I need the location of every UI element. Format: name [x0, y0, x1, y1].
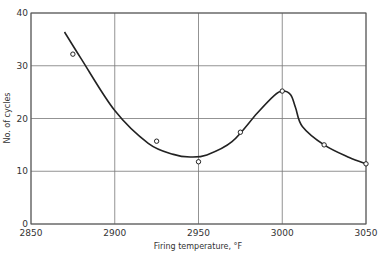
x-tick-label: 3050 — [355, 228, 378, 238]
y-tick-label: 40 — [17, 8, 29, 18]
y-tick-label: 20 — [17, 114, 29, 124]
gridlines — [31, 13, 366, 224]
data-point-marker — [322, 143, 326, 147]
data-point-marker — [238, 130, 242, 134]
x-axis-ticks: 28502900295030003050 — [20, 228, 378, 238]
data-point-marker — [280, 89, 284, 93]
y-axis-ticks: 010203040 — [17, 8, 29, 229]
y-tick-label: 10 — [17, 166, 29, 176]
x-tick-label: 3000 — [271, 228, 294, 238]
fitted-curve — [65, 32, 367, 164]
data-point-marker — [154, 139, 158, 143]
x-tick-label: 2950 — [187, 228, 210, 238]
y-axis-label: No. of cycles — [3, 93, 12, 144]
data-point-marker — [196, 160, 200, 164]
x-tick-label: 2900 — [103, 228, 126, 238]
data-point-marker — [364, 162, 368, 166]
x-tick-label: 2850 — [20, 228, 43, 238]
x-axis-label: Firing temperature, °F — [154, 242, 243, 251]
data-point-marker — [71, 52, 75, 56]
chart: 010203040 28502900295030003050 Firing te… — [0, 0, 384, 254]
y-tick-label: 30 — [17, 61, 29, 71]
